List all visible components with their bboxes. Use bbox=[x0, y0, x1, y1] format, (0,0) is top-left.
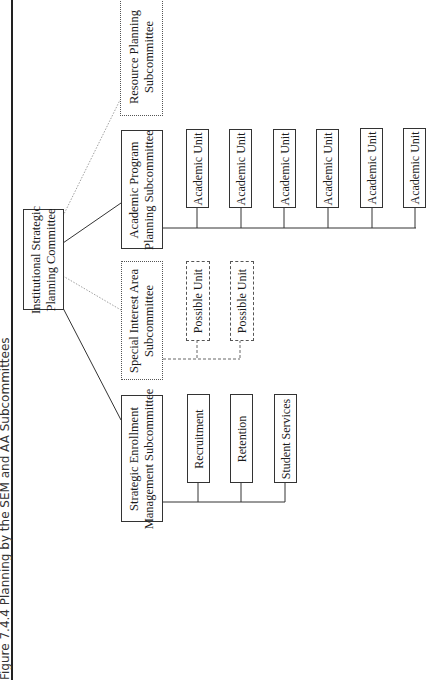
connector-root-resource bbox=[63, 100, 120, 216]
connector-root-academic bbox=[63, 203, 121, 243]
academic-unit-label: Academic Unit bbox=[277, 132, 292, 205]
retention-box: Retention bbox=[230, 394, 253, 483]
student-services-label: Student Services bbox=[278, 398, 293, 478]
special-interest-label: Special Interest Area Subcommittee bbox=[127, 268, 157, 372]
resource-line1: Resource Planning bbox=[127, 10, 142, 104]
enrollment-line2: Management Subcommittee bbox=[142, 388, 157, 529]
academic-unit-label: Academic Unit bbox=[320, 132, 335, 205]
academic-unit-box: Academic Unit bbox=[316, 129, 339, 208]
root-committee-label: Institutional Strategic Planning Committ… bbox=[29, 206, 59, 314]
connector-root-enrollment bbox=[63, 308, 121, 420]
academic-unit-box: Academic Unit bbox=[229, 129, 252, 208]
possible-unit-box: Possible Unit bbox=[186, 261, 210, 341]
possible-unit-box: Possible Unit bbox=[230, 261, 254, 341]
academic-unit-box: Academic Unit bbox=[273, 129, 296, 208]
academic-line2: Planning Subcommittee bbox=[142, 130, 157, 250]
root-committee-box: Institutional Strategic Planning Committ… bbox=[23, 209, 64, 310]
academic-unit-label: Academic Unit bbox=[407, 132, 422, 205]
possible-unit-label: Possible Unit bbox=[235, 269, 250, 333]
connector-root-special bbox=[63, 276, 121, 310]
root-line2: Planning Committee bbox=[44, 206, 59, 314]
academic-program-subcommittee-box: Academic Program Planning Subcommittee bbox=[121, 130, 163, 249]
academic-line1: Academic Program bbox=[127, 130, 142, 250]
academic-unit-label: Academic Unit bbox=[364, 132, 379, 205]
student-services-box: Student Services bbox=[274, 394, 297, 483]
special-line2: Subcommittee bbox=[142, 268, 157, 372]
enrollment-management-label: Strategic Enrollment Management Subcommi… bbox=[127, 388, 157, 529]
resource-planning-subcommittee-box: Resource Planning Subcommittee bbox=[120, 0, 163, 116]
root-line1: Institutional Strategic bbox=[29, 206, 44, 314]
special-line1: Special Interest Area bbox=[127, 268, 142, 372]
resource-line2: Subcommittee bbox=[142, 10, 157, 104]
academic-unit-box: Academic Unit bbox=[360, 128, 383, 208]
recruitment-label: Recruitment bbox=[191, 409, 206, 468]
resource-planning-label: Resource Planning Subcommittee bbox=[127, 10, 157, 104]
enrollment-management-subcommittee-box: Strategic Enrollment Management Subcommi… bbox=[121, 395, 163, 522]
retention-label: Retention bbox=[234, 415, 249, 462]
academic-unit-box: Academic Unit bbox=[403, 128, 426, 208]
academic-unit-box: Academic Unit bbox=[186, 129, 209, 208]
enrollment-line1: Strategic Enrollment bbox=[127, 388, 142, 529]
possible-unit-label: Possible Unit bbox=[191, 269, 206, 333]
special-interest-subcommittee-box: Special Interest Area Subcommittee bbox=[121, 261, 163, 380]
recruitment-box: Recruitment bbox=[187, 394, 210, 483]
academic-program-label: Academic Program Planning Subcommittee bbox=[127, 130, 157, 250]
connector-lines bbox=[0, 0, 429, 680]
academic-unit-label: Academic Unit bbox=[233, 132, 248, 205]
academic-unit-label: Academic Unit bbox=[190, 132, 205, 205]
